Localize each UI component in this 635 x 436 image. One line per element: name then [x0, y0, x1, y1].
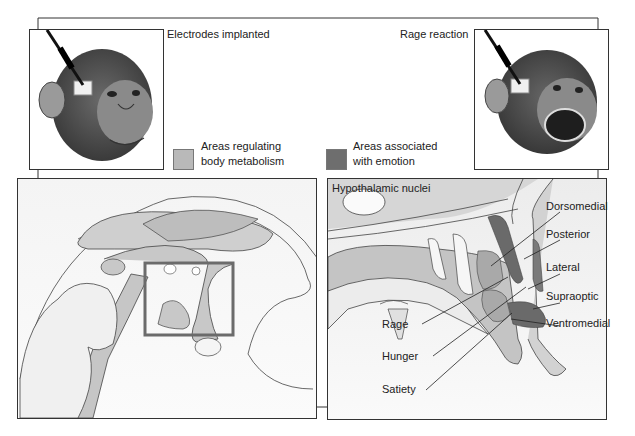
rage-reaction-panel [474, 29, 609, 170]
chimp-eye [575, 87, 583, 93]
hypothalamic-nuclei-panel: Hypothalamic nuclei Dorsomedial Posterio… [327, 178, 607, 420]
label-satiety: Satiety [382, 383, 416, 396]
legend-label-metabolism-line2: body metabolism [201, 155, 284, 168]
chimp-open-mouth [545, 109, 585, 141]
label-posterior: Posterior [546, 228, 590, 241]
chimp-eye [132, 90, 140, 96]
legend-label-metabolism-line1: Areas regulating [201, 140, 281, 153]
rage-chimp-illustration [475, 30, 608, 169]
brain-sagittal-panel [17, 178, 317, 419]
hypothalamic-nuclei-title: Hypothalamic nuclei [332, 182, 430, 195]
chimp-eye [107, 91, 117, 97]
legend-swatch-metabolism [173, 149, 194, 170]
label-hunger: Hunger [382, 350, 418, 363]
brain-sagittal-illustration [18, 179, 316, 418]
legend-swatch-emotion [326, 149, 347, 170]
calm-chimp-illustration [30, 30, 163, 169]
label-rage: Rage [382, 318, 408, 331]
electrodes-implanted-caption: Electrodes implanted [167, 28, 270, 41]
legend-label-emotion-line1: Areas associated [353, 140, 437, 153]
label-ventromedial: Ventromedial [546, 317, 610, 330]
chimp-ear [39, 82, 65, 118]
legend-label-emotion-line2: with emotion [353, 155, 415, 168]
label-dorsomedial: Dorsomedial [546, 200, 608, 213]
chimp-eye [553, 85, 561, 91]
chimp-ear [485, 79, 509, 113]
pituitary-stalk [158, 301, 190, 329]
label-lateral: Lateral [546, 261, 580, 274]
pituitary-gland [195, 338, 221, 356]
label-supraoptic: Supraoptic [546, 290, 599, 303]
nucleus-rage-region [477, 251, 503, 290]
electrode-patch [511, 79, 529, 93]
electrodes-implanted-panel [29, 29, 164, 170]
chimp-face [97, 80, 153, 144]
nucleus-supraoptic [508, 302, 546, 328]
rage-reaction-caption: Rage reaction [400, 28, 469, 41]
